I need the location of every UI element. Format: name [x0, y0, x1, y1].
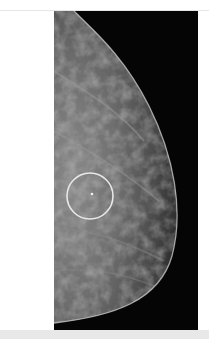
mammogram-graphic: [54, 11, 198, 330]
caption: [0, 330, 209, 339]
mammogram-image: [54, 11, 198, 330]
